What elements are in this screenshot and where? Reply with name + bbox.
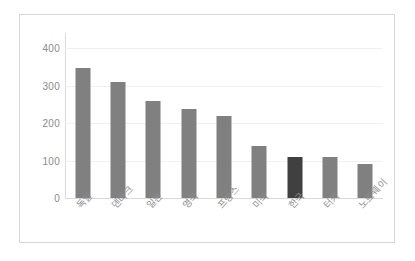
bar-slot	[312, 33, 347, 198]
y-axis-tick-label: 300	[42, 80, 60, 91]
bar-slot	[242, 33, 277, 198]
bar-slot	[277, 33, 312, 198]
plot-area	[65, 33, 383, 198]
y-axis-tick-label: 200	[42, 118, 60, 129]
bar-일본[interactable]	[146, 101, 161, 198]
chart-container: 4003002001000 독일덴마크일본영국프랑스미국한국터키노르웨이	[19, 14, 395, 243]
bar-독일[interactable]	[75, 68, 90, 199]
bar-덴마크[interactable]	[110, 82, 125, 198]
y-axis-tick-label: 0	[54, 193, 60, 204]
bar-slot	[206, 33, 241, 198]
bar-slot	[65, 33, 100, 198]
y-axis-tick-labels: 4003002001000	[20, 15, 60, 244]
bar-slot	[100, 33, 135, 198]
bar-slot	[171, 33, 206, 198]
y-axis-tick-label: 100	[42, 155, 60, 166]
y-axis-tick-label: 400	[42, 43, 60, 54]
bar-영국[interactable]	[181, 109, 196, 198]
bar-slot	[348, 33, 383, 198]
bar-slot	[136, 33, 171, 198]
